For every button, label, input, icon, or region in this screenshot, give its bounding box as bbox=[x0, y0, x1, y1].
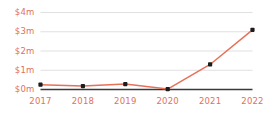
chart-canvas: $0m$1m$2m$3m$4m 201720182019202020212022 bbox=[0, 0, 263, 114]
data-point-marker[interactable] bbox=[208, 62, 212, 66]
y-axis-tick-label: $4m bbox=[15, 7, 35, 17]
data-point-marker[interactable] bbox=[166, 87, 170, 91]
data-point-marker[interactable] bbox=[81, 84, 85, 88]
x-axis-tick-label: 2021 bbox=[199, 96, 221, 106]
x-axis-tick-label: 2019 bbox=[114, 96, 136, 106]
x-axis-tick-label: 2018 bbox=[72, 96, 94, 106]
x-axis-tick-label: 2017 bbox=[29, 96, 51, 106]
x-axis-tick-labels: 201720182019202020212022 bbox=[29, 96, 263, 106]
y-axis-tick-label: $3m bbox=[15, 26, 35, 36]
x-axis-tick-label: 2022 bbox=[241, 96, 263, 106]
data-point-marker[interactable] bbox=[250, 28, 254, 32]
series-line bbox=[41, 30, 253, 89]
x-axis-tick-label: 2020 bbox=[156, 96, 178, 106]
line-chart: $0m$1m$2m$3m$4m 201720182019202020212022 bbox=[0, 0, 263, 114]
data-point-marker[interactable] bbox=[123, 82, 127, 86]
data-point-marker[interactable] bbox=[38, 83, 42, 87]
gridlines-group bbox=[41, 13, 253, 90]
y-axis-tick-labels: $0m$1m$2m$3m$4m bbox=[15, 7, 35, 94]
data-point-markers bbox=[38, 28, 254, 91]
y-axis-tick-label: $1m bbox=[15, 65, 35, 75]
y-axis-tick-label: $0m bbox=[15, 84, 35, 94]
y-axis-tick-label: $2m bbox=[15, 46, 35, 56]
